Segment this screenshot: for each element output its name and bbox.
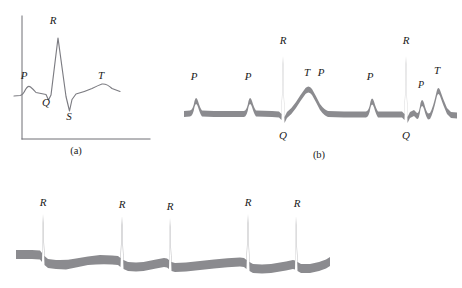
label-r2-panel-c: R bbox=[118, 198, 126, 210]
panel-b-svg: P P R Q T P P R Q P T (b) bbox=[175, 10, 462, 170]
fibrillation-waveform-band bbox=[16, 214, 330, 274]
label-r1-panel-c: R bbox=[39, 196, 47, 208]
panel-c-fibrillation-strip: R R R R R bbox=[0, 172, 360, 288]
label-t2-panel-b: T bbox=[434, 64, 441, 76]
label-s-panel-a: S bbox=[66, 110, 72, 122]
label-p2-panel-b: P bbox=[244, 70, 252, 82]
panel-c-svg: R R R R R bbox=[0, 172, 360, 288]
label-r1-panel-b: R bbox=[279, 34, 287, 46]
label-p4-panel-b: P bbox=[366, 70, 374, 82]
label-r-panel-a: R bbox=[49, 14, 57, 26]
label-q-panel-a: Q bbox=[42, 96, 50, 108]
label-t-panel-a: T bbox=[98, 69, 105, 81]
label-r5-panel-c: R bbox=[293, 197, 301, 209]
label-p3-panel-b: P bbox=[317, 66, 325, 78]
caption-panel-a: (a) bbox=[70, 145, 82, 157]
ecg-figure: P R Q S T (a) P P R Q T P P R Q P T (b) bbox=[0, 0, 462, 288]
caption-panel-b: (b) bbox=[313, 149, 326, 161]
label-p1-panel-b: P bbox=[190, 70, 198, 82]
label-p-panel-a: P bbox=[20, 69, 28, 81]
panel-b-flutter-strip: P P R Q T P P R Q P T (b) bbox=[175, 10, 462, 170]
pqrst-waveform-trace bbox=[14, 38, 120, 111]
label-q1-panel-b: Q bbox=[279, 129, 287, 141]
label-p5-panel-b: P bbox=[417, 79, 424, 90]
label-r2-panel-b: R bbox=[402, 34, 410, 46]
panel-a-normal-complex: P R Q S T (a) bbox=[0, 0, 175, 168]
label-q2-panel-b: Q bbox=[402, 129, 410, 141]
panel-a-svg: P R Q S T (a) bbox=[0, 0, 175, 168]
label-r3-panel-c: R bbox=[166, 200, 174, 212]
label-r4-panel-c: R bbox=[244, 196, 252, 208]
label-t1-panel-b: T bbox=[304, 66, 311, 78]
